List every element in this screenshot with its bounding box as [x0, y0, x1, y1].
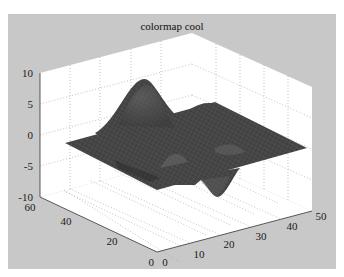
- z-axis-ticks: 10 5 0 -5 -10: [18, 67, 33, 203]
- y-tick-label: 60: [25, 201, 37, 213]
- x-tick-label: 20: [224, 238, 236, 250]
- chart-title: colormap cool: [140, 20, 203, 32]
- x-tick-label: 50: [316, 210, 328, 222]
- y-tick-label: 20: [107, 235, 119, 247]
- y-tick-label: 0: [149, 256, 155, 268]
- x-tick-label: 40: [287, 220, 299, 232]
- x-tick-label: 10: [194, 248, 206, 260]
- z-tick-label: -5: [24, 160, 34, 172]
- z-tick-label: 10: [22, 67, 34, 79]
- y-tick-label: 40: [61, 215, 73, 227]
- surface-plot: colormap cool 10 5 0 -5 -10 0 20 40 60 0…: [0, 0, 344, 277]
- x-tick-label: 30: [256, 230, 268, 242]
- z-tick-label: 5: [28, 98, 34, 110]
- z-tick-label: 0: [28, 129, 34, 141]
- x-tick-label: 0: [162, 256, 168, 268]
